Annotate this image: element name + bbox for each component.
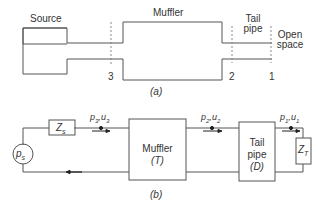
caption-b: (b): [150, 190, 162, 200]
arrow-right-icon: [296, 130, 300, 133]
station-1-label: 1: [269, 72, 275, 82]
state-label-1: p1,u1: [280, 113, 299, 124]
source-label: Source: [30, 14, 62, 24]
source-pressure-label: ps: [16, 149, 25, 161]
node-dot-1: [289, 126, 292, 129]
muffler-block-label: Muffler (T): [129, 143, 186, 167]
arrow-right-icon: [106, 130, 110, 133]
tail-pipe-block-label: Tail pipe (D): [239, 137, 275, 173]
node-dot-3: [99, 126, 102, 129]
arrow-left-icon: [66, 170, 70, 173]
source-impedance-label: Zs: [56, 123, 66, 135]
node-dot-2: [210, 126, 213, 129]
open-space-label: Open space: [276, 30, 304, 50]
station-3-label: 3: [108, 72, 114, 82]
state-label-2: p2,u2: [201, 113, 220, 124]
station-2-label: 2: [229, 72, 235, 82]
arrow-right-icon: [218, 130, 222, 133]
muffler-label: Muffler: [153, 8, 183, 18]
terminal-impedance-label: ZT: [298, 145, 308, 157]
source-chamber: [23, 28, 67, 44]
caption-a: (a): [150, 87, 162, 97]
tail-pipe-label: Tail pipe: [242, 14, 264, 34]
state-label-3: p3,u3: [90, 113, 109, 124]
